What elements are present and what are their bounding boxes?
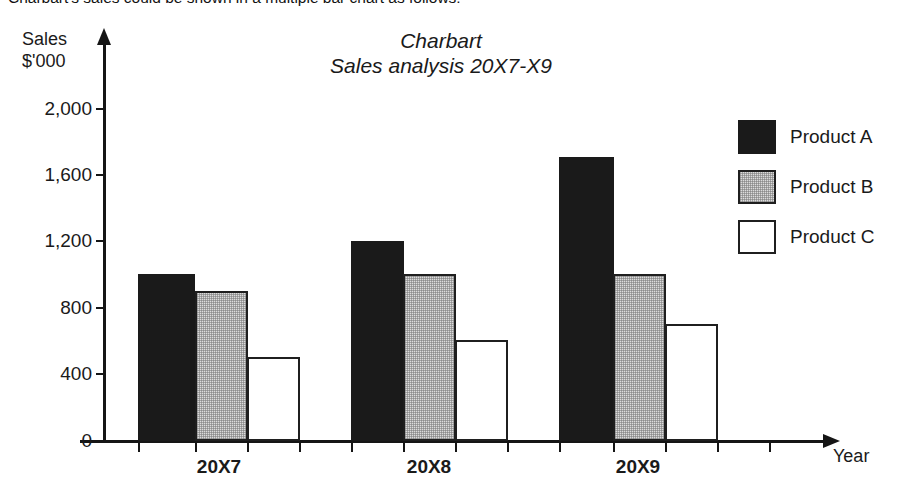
bar-20X9-product-b <box>613 274 666 441</box>
y-tick-label: 2,000 <box>6 99 92 118</box>
bar-20X9-product-a <box>559 157 614 441</box>
x-tick-mark <box>665 441 667 452</box>
y-tick-mark <box>96 240 105 242</box>
x-tick-mark <box>351 441 353 452</box>
bar-20X8-product-b <box>403 274 456 441</box>
x-tick-mark <box>138 441 140 452</box>
bar-20X7-product-c <box>247 357 300 441</box>
legend-label-product-b: Product B <box>790 176 873 198</box>
y-tick-label: 0 <box>6 431 92 450</box>
y-tick-mark <box>96 108 105 110</box>
bar-chart-figure: Charbart Sales analysis 20X7-X9 Sales $'… <box>0 0 908 496</box>
x-tick-mark <box>195 441 197 452</box>
x-tick-mark <box>613 441 615 452</box>
x-tick-label-20X8: 20X8 <box>369 456 489 478</box>
bar-20X8-product-c <box>455 340 508 441</box>
x-tick-mark <box>717 441 719 452</box>
x-axis-title: Year <box>833 446 869 467</box>
x-tick-mark <box>403 441 405 452</box>
y-axis-arrowhead-icon <box>97 28 111 45</box>
legend-swatch-product-c-icon <box>738 220 776 254</box>
y-axis-line <box>103 42 106 442</box>
x-tick-mark <box>507 441 509 452</box>
y-tick-label: 1,200 <box>6 231 92 250</box>
y-axis-title: Sales $'000 <box>22 28 67 72</box>
x-tick-mark <box>455 441 457 452</box>
y-tick-mark <box>96 373 105 375</box>
y-axis-title-line2: $'000 <box>22 50 67 72</box>
y-tick-mark <box>96 440 105 442</box>
x-tick-mark <box>247 441 249 452</box>
bar-20X8-product-a <box>351 241 404 441</box>
legend-swatch-product-b-icon <box>738 170 776 204</box>
y-tick-mark <box>96 307 105 309</box>
x-tick-mark <box>769 441 771 452</box>
legend-swatch-product-a-icon <box>738 120 776 154</box>
x-tick-mark <box>559 441 561 452</box>
y-tick-label: 400 <box>6 364 92 383</box>
x-tick-mark <box>299 441 301 452</box>
legend-label-product-c: Product C <box>790 226 874 248</box>
chart-subtitle: Sales analysis 20X7-X9 <box>246 53 636 78</box>
x-tick-label-20X7: 20X7 <box>159 456 279 478</box>
y-axis-title-line1: Sales <box>22 29 67 49</box>
y-tick-label: 800 <box>6 298 92 317</box>
legend-label-product-a: Product A <box>790 126 872 148</box>
y-tick-mark <box>96 174 105 176</box>
bar-20X7-product-a <box>138 274 195 441</box>
bar-20X7-product-b <box>195 291 248 441</box>
y-tick-label: 1,600 <box>6 165 92 184</box>
bar-20X9-product-c <box>665 324 718 441</box>
x-tick-label-20X9: 20X9 <box>578 456 698 478</box>
chart-title: Charbart <box>276 28 606 53</box>
